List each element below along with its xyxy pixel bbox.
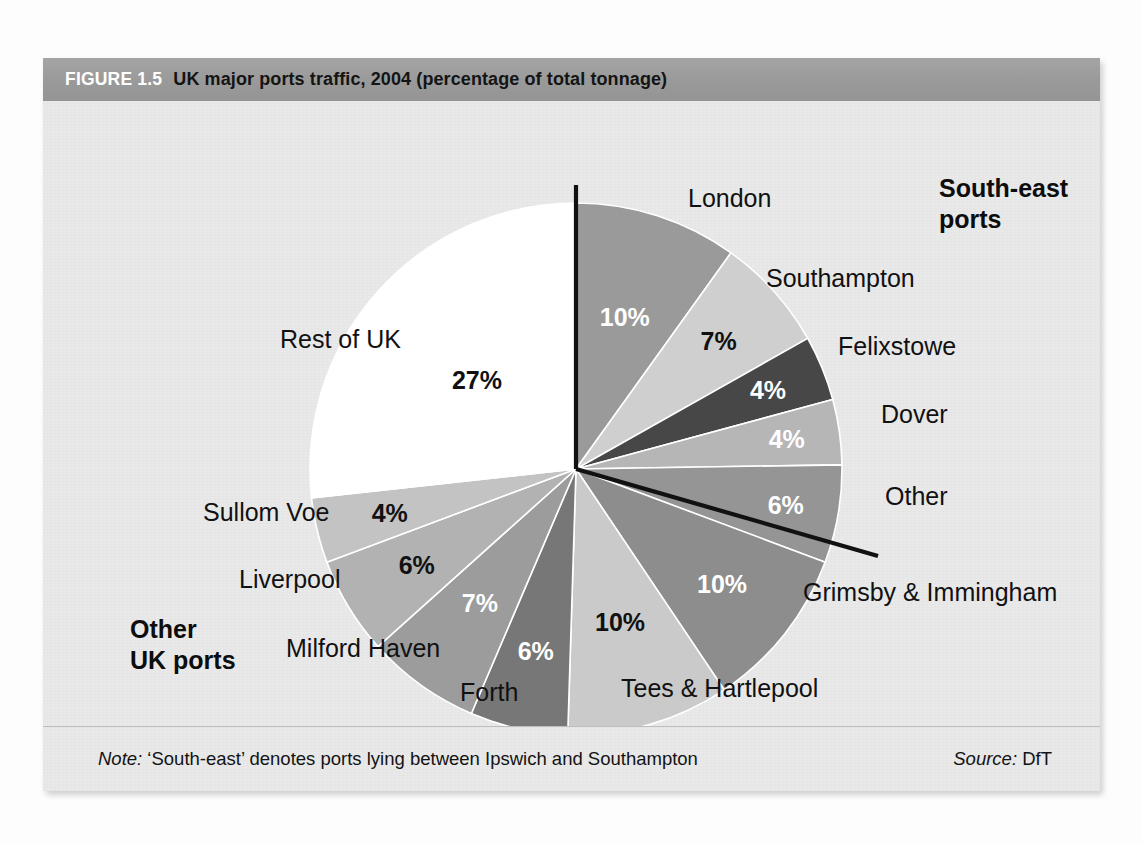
pie-label-felixstowe: Felixstowe [838, 332, 956, 360]
figure-note: Note: ‘South-east’ denotes ports lying b… [98, 748, 698, 770]
group-label-other-uk-line1: Other [130, 615, 197, 643]
pie-value-liverpool: 6% [399, 551, 435, 579]
page-canvas: FIGURE 1.5 UK major ports traffic, 2004 … [0, 0, 1142, 844]
pie-label-london: London [688, 184, 771, 212]
pie-label-grimsby-immingham: Grimsby & Immingham [803, 578, 1057, 606]
note-label: Note: [98, 748, 142, 769]
group-label-south-east-line1: South-east [939, 174, 1069, 202]
pie-label-rest-of-uk: Rest of UK [280, 325, 401, 353]
note-body: ‘South-east’ denotes ports lying between… [142, 748, 698, 769]
source-label: Source: [953, 748, 1017, 769]
pie-value-grimsby-immingham: 10% [697, 570, 747, 598]
pie-value-dover: 4% [769, 425, 805, 453]
figure-panel: FIGURE 1.5 UK major ports traffic, 2004 … [43, 58, 1100, 791]
pie-value-rest-of-uk: 27% [452, 366, 502, 394]
source-body: DfT [1017, 748, 1052, 769]
pie-value-southampton: 7% [701, 327, 737, 355]
figure-source: Source: DfT [953, 748, 1070, 770]
figure-footer: Note: ‘South-east’ denotes ports lying b… [43, 726, 1100, 791]
group-label-south-east-line2: ports [939, 205, 1002, 233]
pie-label-dover: Dover [881, 400, 948, 428]
pie-value-felixstowe: 4% [750, 376, 786, 404]
figure-number: FIGURE 1.5 [65, 69, 162, 90]
pie-chart-area: London Southampton Felixstowe Dover Othe… [43, 101, 1100, 726]
pie-label-other: Other [885, 482, 948, 510]
pie-chart-svg: London Southampton Felixstowe Dover Othe… [43, 101, 1100, 726]
pie-value-other: 6% [768, 491, 804, 519]
pie-value-forth: 6% [518, 637, 554, 665]
pie-value-milford-haven: 7% [462, 589, 498, 617]
pie-label-milford-haven: Milford Haven [286, 634, 440, 662]
pie-label-forth: Forth [460, 678, 518, 706]
pie-value-tees-hartlepool: 10% [595, 608, 645, 636]
pie-value-london: 10% [600, 303, 650, 331]
figure-title: UK major ports traffic, 2004 (percentage… [173, 69, 667, 90]
pie-label-tees-hartlepool: Tees & Hartlepool [621, 674, 818, 702]
pie-label-liverpool: Liverpool [239, 565, 340, 593]
pie-label-southampton: Southampton [766, 264, 915, 292]
pie-value-sullom-voe: 4% [372, 499, 408, 527]
group-label-other-uk-line2: UK ports [130, 646, 236, 674]
pie-label-sullom-voe: Sullom Voe [203, 498, 329, 526]
figure-header-bar: FIGURE 1.5 UK major ports traffic, 2004 … [43, 58, 1100, 101]
